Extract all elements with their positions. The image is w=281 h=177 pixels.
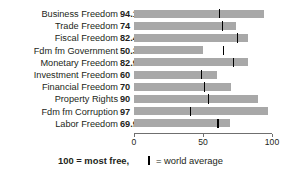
category-label: Financial Freedom bbox=[42, 81, 118, 93]
bar-track bbox=[134, 83, 272, 91]
world-average-tick bbox=[223, 46, 225, 55]
world-average-tick-icon bbox=[148, 156, 150, 165]
category-label: Labor Freedom bbox=[55, 118, 118, 130]
value-label: 74 bbox=[120, 20, 130, 32]
category-label: Business Freedom bbox=[41, 8, 118, 20]
value-bar bbox=[134, 71, 217, 79]
world-average-tick bbox=[190, 107, 192, 116]
category-label: Investment Freedom bbox=[34, 69, 118, 81]
bar-track bbox=[134, 58, 272, 66]
bar-rows: Business Freedom94.1Trade Freedom74Fisca… bbox=[0, 8, 281, 130]
bar-row: Fdm fm Corruption97 bbox=[0, 106, 281, 118]
value-bar bbox=[134, 58, 248, 66]
chart-legend: 100 = most free, = world average bbox=[0, 155, 281, 166]
bar-row: Trade Freedom74 bbox=[0, 20, 281, 32]
bar-track bbox=[134, 107, 272, 115]
bar-row: Business Freedom94.1 bbox=[0, 8, 281, 20]
legend-average-note: = world average bbox=[156, 155, 223, 166]
legend-scale-note: 100 = most free, bbox=[58, 155, 129, 166]
bar-track bbox=[134, 34, 272, 42]
bar-row: Investment Freedom60 bbox=[0, 69, 281, 81]
bar-row: Fdm fm Government50.3 bbox=[0, 45, 281, 57]
x-axis-tick-labels: 050100 bbox=[134, 137, 272, 149]
bar-track bbox=[134, 95, 272, 103]
world-average-tick bbox=[237, 33, 239, 42]
x-axis-tick-label: 0 bbox=[132, 137, 137, 147]
world-average-tick bbox=[222, 21, 224, 30]
value-label: 97 bbox=[120, 106, 130, 118]
value-bar bbox=[134, 95, 258, 103]
category-label: Fdm fm Corruption bbox=[41, 106, 118, 118]
economic-freedom-bar-chart: Business Freedom94.1Trade Freedom74Fisca… bbox=[0, 0, 281, 177]
category-label: Property Rights bbox=[55, 93, 118, 105]
value-bar bbox=[134, 107, 268, 115]
category-label: Monetary Freedom bbox=[40, 57, 118, 69]
value-bar bbox=[134, 34, 248, 42]
category-label: Trade Freedom bbox=[55, 20, 118, 32]
category-label: Fiscal Freedom bbox=[55, 32, 118, 44]
value-bar bbox=[134, 10, 264, 18]
bar-row: Fiscal Freedom82.4 bbox=[0, 32, 281, 44]
x-axis-tick-label: 50 bbox=[198, 137, 208, 147]
chart-title-clipped bbox=[8, 0, 188, 2]
world-average-tick bbox=[201, 70, 203, 79]
value-label: 60 bbox=[120, 69, 130, 81]
value-bar bbox=[134, 119, 230, 127]
bar-track bbox=[134, 46, 272, 54]
value-bar bbox=[134, 46, 203, 54]
world-average-tick bbox=[233, 58, 235, 67]
x-axis-tick-label: 100 bbox=[265, 137, 279, 147]
value-label: 70 bbox=[120, 81, 130, 93]
bar-row: Financial Freedom70 bbox=[0, 81, 281, 93]
world-average-tick bbox=[208, 94, 210, 103]
bar-track bbox=[134, 10, 272, 18]
world-average-tick bbox=[219, 9, 221, 18]
bar-track bbox=[134, 71, 272, 79]
world-average-tick bbox=[217, 119, 219, 128]
world-average-tick bbox=[204, 82, 206, 91]
bar-row: Labor Freedom69.9 bbox=[0, 118, 281, 130]
bar-row: Property Rights90 bbox=[0, 93, 281, 105]
bar-row: Monetary Freedom82.9 bbox=[0, 57, 281, 69]
category-label: Fdm fm Government bbox=[34, 45, 118, 57]
value-label: 90 bbox=[120, 93, 130, 105]
bar-track bbox=[134, 119, 272, 127]
value-bar bbox=[134, 83, 231, 91]
bar-track bbox=[134, 22, 272, 30]
